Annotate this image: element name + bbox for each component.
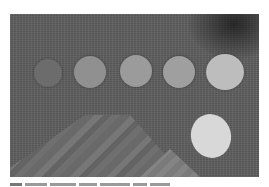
phantom-figure <box>10 14 259 177</box>
contrast-target-3 <box>120 55 152 87</box>
figure-caption <box>10 180 250 187</box>
contrast-target-1 <box>34 59 62 87</box>
contrast-target-4 <box>163 56 195 88</box>
contrast-target-5 <box>206 54 244 90</box>
contrast-target-2 <box>74 56 106 88</box>
